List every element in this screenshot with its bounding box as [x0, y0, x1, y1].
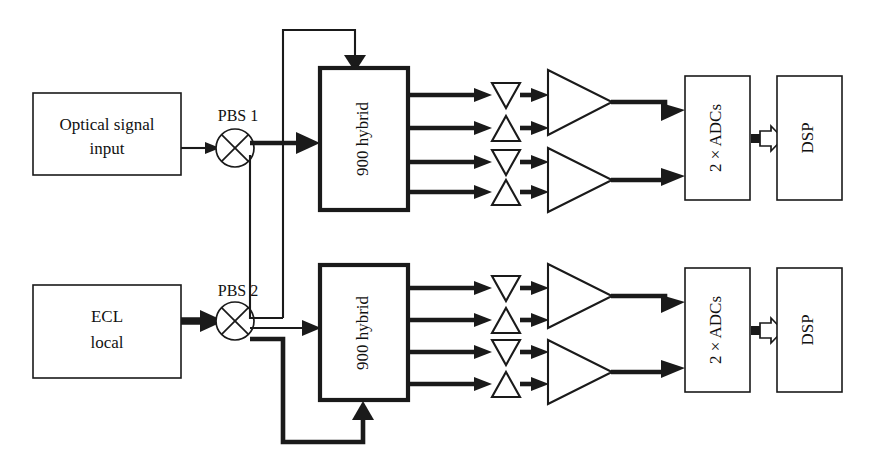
dsp-bottom-block: DSP: [777, 268, 842, 392]
photodiode-bottom-3: [492, 340, 520, 365]
arrowhead-adc-bottom-1: [661, 295, 685, 313]
pbs2-label: PBS 2: [218, 282, 258, 299]
amplifier-top-2: [548, 148, 612, 212]
arrowhead-adc-bottom-2: [661, 360, 685, 378]
pbs1-to-hybrid-top-wire: [250, 132, 320, 154]
arrowhead-hybrid-top-left-input: [296, 132, 320, 154]
bus-arrow-top-tail: [751, 134, 760, 143]
arrowhead-amp-b1b: [531, 313, 549, 327]
ecl-local-label-line1: ECL: [91, 307, 123, 326]
ecl-local-box: [33, 285, 181, 378]
arrowhead-pd-t2: [474, 121, 492, 135]
arrowhead-pd-t3: [474, 155, 492, 169]
adc-top-label: 2 × ADCs: [706, 104, 725, 172]
pbs1-component: PBS 1: [216, 107, 258, 167]
hybrid-top-output-wires: [408, 88, 492, 199]
arrowhead-pd-b4: [474, 377, 492, 391]
dsp-bottom-label: DSP: [798, 314, 817, 345]
photodiode-top-4: [492, 180, 520, 205]
pd-to-amp-bottom-wires: [520, 281, 549, 391]
arrowhead-amp-t1b: [531, 121, 549, 135]
amp-top-to-adc-wires: [611, 102, 685, 186]
arrowhead-adc-top-1: [661, 103, 685, 121]
optical-signal-input-label-line1: Optical signal: [60, 115, 155, 134]
photodiode-top-2: [492, 116, 520, 141]
hybrid-top-label: 900 hybrid: [353, 101, 372, 176]
ecl-local-block: ECL local: [33, 285, 181, 378]
photodiode-top-3: [492, 150, 520, 175]
ecl-local-label-line2: local: [90, 333, 123, 352]
arrowhead-hybrid-bottom-input: [352, 401, 374, 420]
arrowhead-amp-t2a: [531, 155, 549, 169]
amplifier-bottom-2: [548, 340, 612, 404]
hybrid-bottom-label: 900 hybrid: [353, 295, 372, 370]
arrowhead-amp-b1a: [531, 281, 549, 295]
arrowhead-pd-b3: [474, 345, 492, 359]
amplifier-bottom-1: [548, 264, 612, 328]
photodiode-bottom-2: [492, 308, 520, 333]
optical-signal-input-label-line2: input: [90, 139, 125, 158]
arrowhead-adc-top-2: [661, 168, 685, 186]
adc-top-block: 2 × ADCs: [685, 76, 750, 200]
bus-arrow-bottom-tail: [751, 326, 760, 335]
dsp-top-label: DSP: [798, 122, 817, 153]
pd-to-amp-top-wires: [520, 88, 549, 199]
adc-bottom-block: 2 × ADCs: [685, 268, 750, 392]
arrowhead-amp-b2a: [531, 345, 549, 359]
optical-signal-input-block: Optical signal input: [33, 93, 181, 175]
hybrid-bottom-block: 900 hybrid: [320, 265, 408, 400]
arrowhead-amp-t2b: [531, 185, 549, 199]
amp-bottom-to-adc-wires: [611, 295, 685, 378]
pbs2-component: PBS 2: [216, 282, 258, 340]
photodiode-top-1: [492, 83, 520, 108]
signal-to-pbs1-wire: [181, 142, 220, 154]
optical-signal-input-box: [33, 93, 181, 175]
arrowhead-pd-b1: [474, 281, 492, 295]
pbs1-label: PBS 1: [218, 107, 258, 124]
arrowhead-amp-b2b: [531, 377, 549, 391]
pbs2-to-hybrid-bottom-wire: [250, 320, 321, 336]
arrowhead-pd-t1: [474, 88, 492, 102]
dsp-top-block: DSP: [777, 76, 842, 200]
photodiode-bottom-4: [492, 372, 520, 397]
arrowhead-pd-b2: [474, 313, 492, 327]
photodiode-bottom-1: [492, 276, 520, 301]
amplifier-top-1: [548, 70, 612, 135]
adc-bottom-label: 2 × ADCs: [706, 296, 725, 364]
hybrid-bottom-output-wires: [408, 281, 492, 391]
arrowhead-amp-t1a: [531, 88, 549, 102]
hybrid-top-block: 900 hybrid: [320, 68, 408, 210]
arrowhead-pd-t4: [474, 185, 492, 199]
coherent-receiver-diagram: Optical signal input ECL local PBS 1 PBS…: [0, 0, 871, 471]
diagram-canvas: Optical signal input ECL local PBS 1 PBS…: [0, 0, 871, 471]
